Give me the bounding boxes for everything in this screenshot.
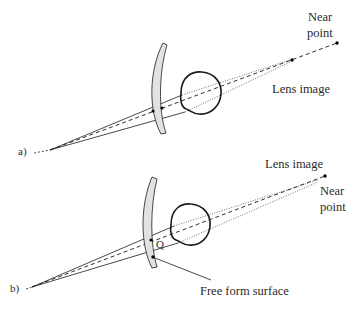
panel-a-lens-image-point xyxy=(290,58,293,61)
panel-b-q-label: Q xyxy=(156,238,164,250)
panel-b-near-point-label-1: Near xyxy=(320,184,345,198)
panel-a-lens-image-label: Lens image xyxy=(272,82,330,96)
panel-a-near-point xyxy=(335,41,338,44)
panel-b-visual-axis xyxy=(32,176,325,287)
panel-b-free-form-label: Free form surface xyxy=(200,284,289,298)
panel-b-eye xyxy=(171,204,210,245)
panel-a-lens-point-back xyxy=(160,106,163,109)
panel-b-near-point-label-2: point xyxy=(320,200,346,214)
panel-a-visual-axis xyxy=(50,43,337,150)
panel-b-axis-tail xyxy=(26,287,32,289)
panel-a-near-point-label-2: point xyxy=(307,26,333,40)
panel-b-spectacle-lens xyxy=(143,177,157,268)
panel-b-lens-image-label: Lens image xyxy=(265,157,323,171)
panel-a-lens-point-front xyxy=(151,109,154,112)
panel-a-near-point-label-1: Near xyxy=(308,10,333,24)
panel-b-dotted-ray-1 xyxy=(174,180,318,226)
panel-b-point-q xyxy=(149,238,152,241)
panel-a: a) Near point Lens image xyxy=(18,10,339,158)
panel-a-label: a) xyxy=(18,145,27,158)
panel-a-eye xyxy=(181,72,221,114)
panel-b-dotted-ray-2 xyxy=(178,182,318,243)
panel-b: b) Q Lens image Near point Free form sur… xyxy=(10,157,346,298)
panel-b-free-form-leader xyxy=(155,258,211,280)
panel-b-lens-image-point xyxy=(323,174,326,177)
panel-b-label: b) xyxy=(10,282,20,295)
panel-b-free-form-point xyxy=(151,255,154,258)
spectacle-lens-diagram: a) Near point Lens image b) xyxy=(0,0,363,311)
panel-a-axis-tail xyxy=(34,150,50,153)
